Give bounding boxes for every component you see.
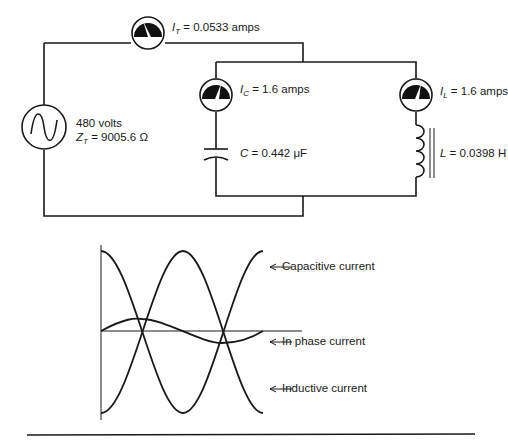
waveform-plot [101,245,302,420]
wire-left-bottom [44,43,303,216]
meter-capacitor-icon [200,79,232,111]
capacitor-current-label: IC = 1.6 amps [240,83,309,98]
inductor-core [430,128,434,178]
capacitive-current-label: Capacitive current [282,260,375,272]
inductive-current-wave [101,251,263,413]
meter-total-icon [132,17,164,49]
capacitive-current-wave [101,251,263,413]
in-phase-current-label: In phase current [282,335,365,347]
capacitance-label: C = 0.442 μF [240,147,307,159]
inductor-coil-icon [416,125,424,177]
wire-top [44,43,303,62]
bottom-rule [27,434,475,435]
inductive-current-label: Inductive current [282,382,367,394]
sine-glyph [31,114,57,140]
source-voltage-label: 480 volts [76,117,122,129]
impedance-label: ZT = 9005.6 Ω [76,131,148,146]
total-current-label: IT = 0.0533 amps [172,21,260,36]
inductor-current-label: IL = 1.6 amps [440,85,508,100]
inductance-label: L = 0.0398 H [440,147,506,159]
meter-inductor-icon [400,79,432,111]
